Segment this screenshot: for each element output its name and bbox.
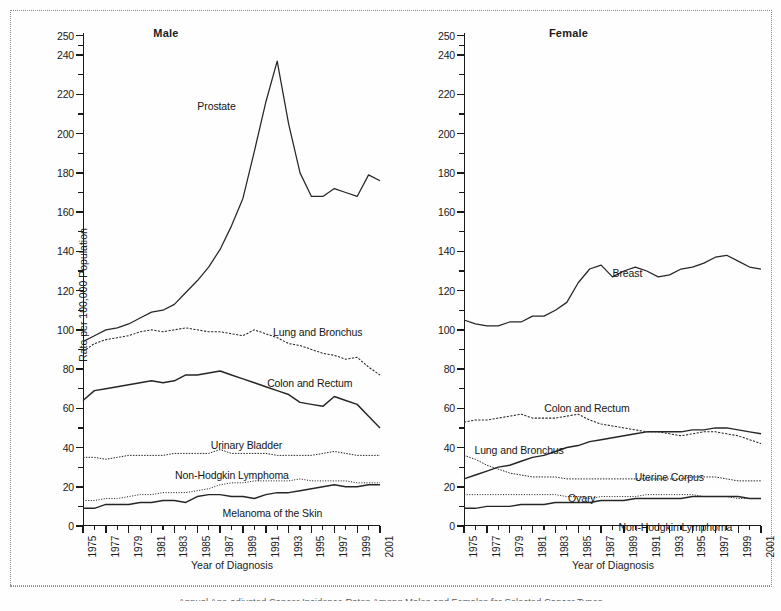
x-tick-1978 (498, 526, 499, 530)
x-tick-label-1995: 1995 (315, 536, 326, 557)
x-tick-1999 (738, 526, 739, 533)
y-tick-40 (457, 447, 464, 449)
x-tick-1989 (242, 526, 243, 533)
x-tick-1993 (288, 526, 289, 533)
y-tick-180 (457, 172, 464, 174)
series-label-ovary: Ovary (568, 492, 596, 504)
y-tick-240 (76, 54, 83, 56)
y-tick-label-220: 220 (438, 88, 455, 100)
y-tick-label-180: 180 (57, 167, 74, 179)
x-tick-1981 (532, 526, 533, 533)
x-tick-label-1991: 1991 (270, 536, 281, 557)
x-tick-1979 (128, 526, 129, 533)
y-tick-160 (76, 211, 83, 213)
y-tick-60 (457, 408, 464, 410)
x-tick-label-1981: 1981 (537, 536, 548, 557)
x-tick-1977 (105, 526, 106, 533)
x-tick-label-1983: 1983 (178, 536, 189, 557)
x-tick-label-1975: 1975 (468, 536, 479, 557)
series-label-non-hodgkin-lymphoma: Non-Hodgkin Lymphoma (618, 521, 732, 533)
x-tick-1983 (555, 526, 556, 533)
y-tick-80 (457, 368, 464, 370)
series-label-colon-and-rectum: Colon and Rectum (267, 377, 352, 389)
x-tick-label-1987: 1987 (605, 536, 616, 557)
x-tick-1994 (299, 526, 300, 530)
figure-caption-text: Annual Age-adjusted Cancer Incidence Rat… (179, 596, 603, 607)
x-tick-1988 (231, 526, 232, 530)
x-tick-1979 (509, 526, 510, 533)
y-tick-40 (76, 447, 83, 449)
y-tick-label-120: 120 (438, 285, 455, 297)
series-label-breast: Breast (613, 267, 643, 279)
y-tick-label-100: 100 (438, 324, 455, 336)
x-tick-label-1977: 1977 (110, 536, 121, 557)
x-tick-1986 (208, 526, 209, 530)
x-tick-1990 (254, 526, 255, 530)
y-tick-200 (76, 133, 83, 135)
x-tick-label-1981: 1981 (156, 536, 167, 557)
y-tick-label-160: 160 (57, 206, 74, 218)
series-line-non-hodgkin-lymphoma (464, 497, 761, 509)
y-tick-20 (76, 486, 83, 488)
y-tick-100 (457, 329, 464, 331)
plot-area-male: 0204060801001201401601802002202402501975… (83, 33, 380, 526)
y-tick-label-100: 100 (57, 324, 74, 336)
x-tick-1996 (322, 526, 323, 530)
x-tick-1992 (277, 526, 278, 530)
x-tick-label-1977: 1977 (491, 536, 502, 557)
series-label-lung-and-bronchus: Lung and Bronchus (273, 326, 362, 338)
y-tick-label-120: 120 (57, 285, 74, 297)
x-tick-1985 (197, 526, 198, 533)
x-tick-1976 (475, 526, 476, 530)
y-tick-label-60: 60 (444, 402, 455, 414)
x-tick-1987 (219, 526, 220, 533)
series-label-colon-and-rectum: Colon and Rectum (544, 402, 629, 414)
x-tick-2001 (760, 526, 761, 533)
x-tick-label-2001: 2001 (765, 536, 776, 557)
y-tick-200 (457, 133, 464, 135)
figure-page: Male Rate per 100,000 Population 0204060… (0, 0, 781, 611)
figure-caption: Annual Age-adjusted Cancer Incidence Rat… (0, 596, 781, 609)
series-label-melanoma-of-the-skin: Melanoma of the Skin (223, 507, 323, 519)
y-tick-240 (457, 54, 464, 56)
y-tick-label-240: 240 (57, 49, 74, 61)
y-tick-220 (457, 94, 464, 96)
series-line-colon-and-rectum (464, 414, 761, 443)
y-tick-label-200: 200 (438, 128, 455, 140)
x-tick-1975 (463, 526, 464, 533)
x-tick-2001 (379, 526, 380, 533)
x-tick-2000 (749, 526, 750, 530)
y-tick-label-250: 250 (438, 30, 455, 42)
x-tick-label-1999: 1999 (361, 536, 372, 557)
x-tick-label-1993: 1993 (293, 536, 304, 557)
series-label-lung-and-bronchus: Lung and Bronchus (474, 444, 563, 456)
y-tick-80 (76, 368, 83, 370)
series-line-uterine-corpus (464, 455, 761, 481)
x-tick-label-1999: 1999 (742, 536, 753, 557)
y-tick-160 (457, 211, 464, 213)
x-tick-label-1997: 1997 (719, 536, 730, 557)
x-tick-label-1987: 1987 (224, 536, 235, 557)
x-tick-1982 (162, 526, 163, 530)
y-tick-label-0: 0 (68, 520, 74, 532)
y-tick-250 (76, 35, 83, 37)
x-tick-2000 (368, 526, 369, 530)
x-tick-1985 (578, 526, 579, 533)
x-tick-label-1991: 1991 (651, 536, 662, 557)
y-tick-60 (76, 408, 83, 410)
x-tick-label-1993: 1993 (674, 536, 685, 557)
y-tick-label-140: 140 (57, 245, 74, 257)
y-tick-label-250: 250 (57, 30, 74, 42)
x-tick-1980 (140, 526, 141, 530)
plot-area-female: 0204060801001201401601802002202402501975… (464, 33, 761, 526)
y-tick-20 (457, 486, 464, 488)
y-tick-label-0: 0 (449, 520, 455, 532)
x-tick-1999 (357, 526, 358, 533)
x-tick-label-1995: 1995 (696, 536, 707, 557)
y-tick-label-20: 20 (63, 481, 74, 493)
x-tick-label-1985: 1985 (201, 536, 212, 557)
x-tick-label-1975: 1975 (87, 536, 98, 557)
y-tick-100 (76, 329, 83, 331)
y-tick-120 (457, 290, 464, 292)
x-tick-1983 (174, 526, 175, 533)
